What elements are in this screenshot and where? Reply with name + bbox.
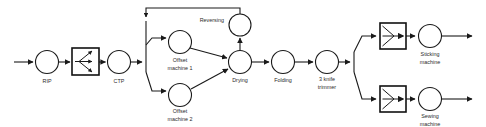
node-three-knife-trimmer-label-line1: 3 knife <box>319 76 335 82</box>
node-offset-machine-1-label-line2: machine 1 <box>168 65 193 71</box>
node-drying-label: Drying <box>232 77 248 83</box>
node-offset-machine-2-label-line2: machine 2 <box>168 116 193 122</box>
node-rip-shape <box>36 51 59 74</box>
node-sewing-machine-label-line2: machine <box>420 121 440 126</box>
node-folding-shape <box>272 51 295 74</box>
node-rip[interactable]: RIP <box>36 51 59 85</box>
node-drying[interactable]: Drying <box>229 51 252 84</box>
node-sticking-machine-shape <box>419 25 442 48</box>
fanout-box[interactable] <box>72 48 99 75</box>
node-folding[interactable]: Folding <box>272 51 295 84</box>
connector-reversing-feedback-to-split <box>146 8 240 17</box>
node-ctp-shape <box>108 51 131 74</box>
node-reversing[interactable]: Reversing <box>200 14 251 36</box>
node-offset-machine-1-shape <box>169 31 192 54</box>
node-sewing-machine-shape <box>419 88 442 111</box>
node-sticking-machine[interactable]: Sticking machine <box>419 25 442 65</box>
connector-split-to-offset-2 <box>146 72 166 91</box>
node-offset-machine-2-shape <box>169 84 192 107</box>
flow-diagram-canvas: RIP CTP Offset machine 1 Offset machine … <box>0 0 486 126</box>
connector-offset-1-to-drying <box>190 48 227 58</box>
node-offset-machine-2-label-line1: Offset <box>173 108 188 114</box>
node-rip-label: RIP <box>43 78 52 84</box>
node-ctp[interactable]: CTP <box>108 51 131 85</box>
node-sticking-machine-label-line2: machine <box>420 59 440 65</box>
node-drying-shape <box>229 51 252 74</box>
fanin-box-sticking[interactable] <box>380 23 406 49</box>
process-flow-diagram: RIP CTP Offset machine 1 Offset machine … <box>0 0 486 126</box>
node-offset-machine-2[interactable]: Offset machine 2 <box>168 84 193 122</box>
node-folding-label: Folding <box>274 77 292 83</box>
node-sewing-machine[interactable]: Sewing machine <box>419 88 442 127</box>
connector-split-2-to-fanin-sewing <box>354 72 376 99</box>
node-three-knife-trimmer[interactable]: 3 knife trimmer <box>316 51 339 90</box>
node-sticking-machine-label-line1: Sticking <box>421 51 440 57</box>
node-sewing-machine-label-line1: Sewing <box>421 113 439 119</box>
fanin-box-sewing[interactable] <box>380 86 406 112</box>
node-three-knife-trimmer-label-line2: trimmer <box>318 84 336 90</box>
node-reversing-label: Reversing <box>200 17 224 23</box>
node-ctp-label: CTP <box>114 78 125 84</box>
node-offset-machine-1-label-line1: Offset <box>173 57 188 63</box>
node-reversing-shape <box>229 14 251 36</box>
connector-split-2-to-fanin-sticking <box>354 36 376 52</box>
connector-offset-2-to-drying <box>191 69 228 89</box>
node-three-knife-trimmer-shape <box>316 51 339 74</box>
node-offset-machine-1[interactable]: Offset machine 1 <box>168 31 193 71</box>
connector-split-to-offset-1 <box>146 38 166 45</box>
